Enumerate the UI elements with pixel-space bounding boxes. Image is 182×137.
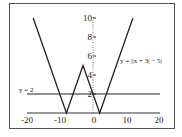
x-tick-label: -20 <box>21 115 33 125</box>
x-tick-label: 20 <box>155 115 165 125</box>
x-tick-label: 0 <box>92 115 97 125</box>
y-tick-label: 8 <box>88 32 93 42</box>
curve-abs-function <box>33 18 133 113</box>
x-tick-label: -10 <box>54 115 66 125</box>
x-tick-label: 10 <box>123 115 133 125</box>
y-tick-label: 6 <box>88 51 93 61</box>
plot-canvas: -20 -10 0 10 20 2 4 6 8 10 y = ||x + 3| … <box>0 0 182 137</box>
y-tick-label: 10 <box>83 13 93 23</box>
line-equation-label: y = 2 <box>19 86 34 94</box>
y-tick-label: 2 <box>88 89 93 99</box>
y-tick-label: 4 <box>88 70 93 80</box>
curve-equation-label: y = ||x + 3| − 5| <box>120 57 162 65</box>
